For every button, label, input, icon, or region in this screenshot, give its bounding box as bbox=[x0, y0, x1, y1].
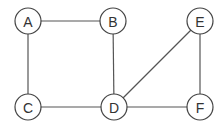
node-f: F bbox=[187, 94, 213, 120]
node-e: E bbox=[187, 8, 213, 34]
node-label: A bbox=[23, 14, 33, 30]
node-label: D bbox=[109, 100, 119, 116]
node-label: B bbox=[108, 14, 117, 30]
node-label: E bbox=[195, 14, 204, 30]
edge-d-e bbox=[114, 21, 200, 107]
node-label: C bbox=[23, 100, 33, 116]
node-d: D bbox=[101, 94, 127, 120]
node-c: C bbox=[15, 94, 41, 120]
node-label: F bbox=[196, 100, 205, 116]
node-b: B bbox=[100, 8, 126, 34]
graph-diagram: ABECDF bbox=[0, 0, 223, 128]
node-a: A bbox=[15, 8, 41, 34]
